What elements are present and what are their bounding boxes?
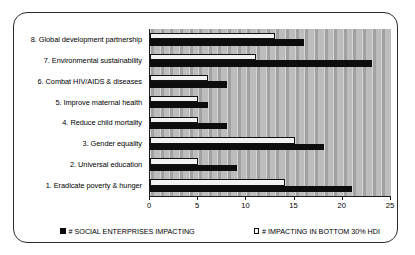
x-axis-tick-label: 20 [338,201,346,210]
legend-entry: # IMPACTING IN BOTTOM 30% HDI [254,227,380,236]
chart-legend: # SOCIAL ENTERPRISES IMPACTING# IMPACTIN… [60,224,380,238]
x-axis-tick-label: 15 [289,201,297,210]
x-axis-tick-labels: 0510152025 [149,201,390,213]
bar-group [150,154,391,175]
bar-social-enterprises-impacting [150,144,324,150]
legend-label: # SOCIAL ENTERPRISES IMPACTING [69,227,195,236]
x-axis-tick [342,196,343,200]
bar-social-enterprises-impacting [150,165,237,171]
legend-entry: # SOCIAL ENTERPRISES IMPACTING [60,227,195,236]
x-axis-tick [245,196,246,200]
chart-figure: 8. Global development partnership7. Envi… [0,0,415,255]
bar-social-enterprises-impacting [150,186,352,192]
bar-social-enterprises-impacting [150,39,304,45]
bar-group [150,29,391,50]
bar-social-enterprises-impacting [150,102,208,108]
legend-swatch-outline-square-icon [254,228,260,234]
category-label: 5. Improve maternal health [16,92,145,113]
x-axis-tick-label: 10 [241,201,249,210]
plot-area [149,29,391,196]
x-axis-tick-label: 0 [147,201,151,210]
x-axis-tick-label: 5 [195,201,199,210]
legend-swatch-filled-square-icon [60,228,66,234]
bar-group [150,50,391,71]
x-axis-tick-label: 25 [386,201,394,210]
legend-label: # IMPACTING IN BOTTOM 30% HDI [262,227,380,236]
category-label: 1. Eradicate poverty & hunger [16,175,145,196]
bar-chart: 8. Global development partnership7. Envi… [0,0,415,255]
x-axis-tick [294,196,295,200]
category-label: 2. Universal education [16,154,145,175]
x-axis-tick [197,196,198,200]
bar-group [150,113,391,134]
x-axis-tick [149,196,150,200]
bar-social-enterprises-impacting [150,81,227,87]
category-label: 3. Gender equality [16,133,145,154]
category-label: 8. Global development partnership [16,29,145,50]
x-axis-tick [390,196,391,200]
bar-group [150,92,391,113]
bar-group [150,133,391,154]
bar-social-enterprises-impacting [150,60,372,66]
bar-group [150,175,391,196]
category-axis-labels: 8. Global development partnership7. Envi… [16,29,145,196]
category-label: 7. Environmental sustainability [16,50,145,71]
bar-group [150,71,391,92]
category-label: 4. Reduce child mortality [16,113,145,134]
category-label: 6. Combat HIV/AIDS & diseases [16,71,145,92]
bar-social-enterprises-impacting [150,123,227,129]
bar-series-container [150,29,391,196]
